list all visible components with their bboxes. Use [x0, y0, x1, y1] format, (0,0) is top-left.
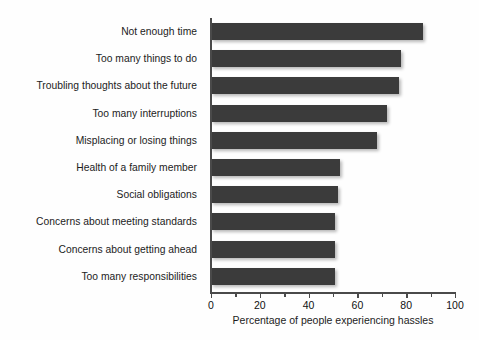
category-label: Health of a family member	[76, 162, 197, 173]
category-label: Too many interruptions	[92, 108, 197, 119]
bar	[211, 23, 423, 40]
x-tick-major	[260, 292, 261, 298]
bar	[211, 77, 399, 94]
x-tick-minor	[284, 292, 285, 297]
category-label: Concerns about getting ahead	[58, 244, 197, 255]
x-tick-label: 0	[208, 299, 214, 311]
x-tick-major	[211, 292, 212, 298]
x-tick-minor	[382, 292, 383, 297]
category-label: Misplacing or losing things	[76, 135, 197, 146]
x-tick-minor	[431, 292, 432, 297]
x-tick-label: 20	[254, 299, 266, 311]
bar	[211, 50, 401, 67]
x-tick-major	[309, 292, 310, 298]
x-tick-label: 100	[446, 299, 464, 311]
bar	[211, 132, 377, 149]
x-tick-label: 60	[352, 299, 364, 311]
bar	[211, 213, 335, 230]
category-axis-labels: Not enough timeToo many things to doTrou…	[0, 18, 204, 292]
x-tick-major	[357, 292, 358, 298]
bar-chart: Not enough timeToo many things to doTrou…	[0, 0, 479, 340]
category-label: Too many responsibilities	[81, 271, 197, 282]
x-axis-title: Percentage of people experiencing hassle…	[211, 314, 455, 326]
x-tick-major	[406, 292, 407, 298]
plot-area	[211, 18, 455, 292]
x-tick-minor	[235, 292, 236, 297]
category-label: Too many things to do	[96, 53, 197, 64]
bar	[211, 186, 338, 203]
y-axis-line	[210, 18, 212, 293]
x-tick-label: 80	[400, 299, 412, 311]
x-tick-major	[455, 292, 456, 298]
x-tick-label: 40	[303, 299, 315, 311]
bar	[211, 241, 335, 258]
category-label: Not enough time	[121, 26, 197, 37]
category-label: Troubling thoughts about the future	[36, 80, 197, 91]
category-label: Concerns about meeting standards	[36, 216, 197, 227]
x-tick-minor	[333, 292, 334, 297]
bar	[211, 159, 340, 176]
bar	[211, 268, 335, 285]
category-label: Social obligations	[117, 189, 198, 200]
bar	[211, 105, 387, 122]
